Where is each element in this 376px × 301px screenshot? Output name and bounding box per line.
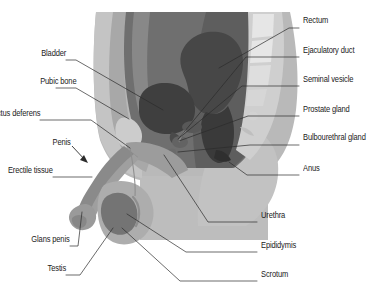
label-scrotum: Scrotum [261, 270, 288, 279]
label-urethra: Urethra [261, 211, 285, 220]
label-bulbourethral-gland: Bulbourethral gland [303, 133, 366, 142]
vertebra-1 [252, 14, 274, 38]
label-ductus-deferens: Ductus deferens [0, 109, 40, 118]
label-epididymis: Epididymis [261, 241, 296, 250]
label-bladder: Bladder [41, 49, 66, 58]
arrow-penis [72, 146, 88, 163]
label-prostate-gland: Prostate gland [303, 105, 350, 114]
label-erectile-tissue: Erectile tissue [8, 166, 53, 175]
vertebra-3 [248, 65, 271, 87]
label-penis: Penis [53, 138, 71, 147]
label-rectum: Rectum [303, 16, 328, 25]
label-ejaculatory-duct: Ejaculatory duct [303, 46, 354, 55]
label-testis: Testis [48, 264, 66, 273]
anatomy-figure: Bladder Pubic bone Ductus deferens Penis… [0, 0, 376, 301]
label-anus: Anus [303, 164, 320, 173]
label-glans-penis: Glans penis [32, 235, 70, 244]
label-seminal-vesicle: Seminal vesicle [303, 75, 353, 84]
label-pubic-bone: Pubic bone [40, 77, 76, 86]
vertebra-2 [250, 39, 273, 63]
